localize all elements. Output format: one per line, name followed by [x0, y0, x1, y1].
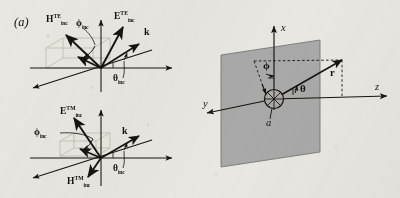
- sphere-diagram: [207, 26, 387, 167]
- panel-label: (a): [14, 16, 29, 29]
- tm-phi-label: ϕinc: [34, 128, 46, 139]
- te-phi-label: ϕinc: [76, 19, 88, 30]
- tm-k-vector-arrow: [101, 136, 139, 158]
- te-diagram: [30, 20, 172, 92]
- sphere-theta-label: θ: [300, 83, 306, 94]
- te-projection-arrow: [78, 57, 101, 68]
- te-axis-oblique: [33, 50, 152, 88]
- sphere-axis-z-label: z: [375, 82, 379, 93]
- sphere-axis-y-label: y: [203, 99, 208, 110]
- aperture-label: a: [266, 118, 271, 129]
- te-h-vector-label: HTEinc: [46, 14, 67, 27]
- tm-theta-label: θinc: [113, 164, 124, 175]
- te-e-subscript: inc: [128, 17, 134, 23]
- sphere-phi-label: ϕ: [263, 60, 270, 71]
- tm-e-subscript: inc: [76, 112, 82, 118]
- aperture-marker: [265, 90, 284, 109]
- te-k-vector-label: k: [144, 27, 150, 37]
- figure-panel-a: [0, 0, 400, 198]
- te-construction-box: [46, 38, 110, 68]
- tm-e-superscript: TM: [66, 105, 75, 111]
- sphere-axis-x-label: x: [281, 23, 286, 34]
- te-theta-label: θinc: [113, 74, 124, 85]
- te-theta-subscript: inc: [118, 79, 124, 85]
- te-phi-leader: [84, 29, 95, 45]
- tm-e-vector-label: ETMinc: [60, 106, 82, 119]
- te-e-superscript: TE: [120, 10, 128, 16]
- te-h-subscript: inc: [61, 20, 67, 26]
- tm-theta-subscript: inc: [118, 169, 124, 175]
- te-phi-subscript: inc: [82, 24, 88, 30]
- te-h-superscript: TE: [53, 13, 61, 19]
- tm-k-vector-label: k: [122, 126, 128, 136]
- tm-h-subscript: inc: [84, 182, 90, 188]
- tm-h-superscript: TM: [74, 175, 83, 181]
- tm-h-vector-arrow: [88, 158, 101, 177]
- te-h-vector-arrow: [66, 35, 101, 68]
- tm-construction-box: [60, 133, 110, 156]
- tm-h-vector-label: HTMinc: [67, 176, 90, 189]
- te-e-vector-label: ETEinc: [114, 11, 134, 24]
- tm-phi-subscript: inc: [40, 133, 46, 139]
- tm-diagram: [30, 110, 172, 186]
- sphere-r-vector-label: r: [330, 68, 335, 79]
